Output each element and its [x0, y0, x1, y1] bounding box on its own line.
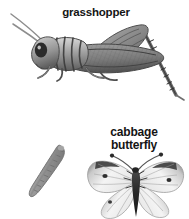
butterfly-head: [132, 167, 139, 173]
butterfly-figure: [82, 150, 189, 219]
butterfly-antenna-club-left: [110, 154, 114, 158]
butterfly-body: [132, 170, 140, 217]
grasshopper-figure: [0, 6, 189, 106]
caterpillar-figure: [20, 138, 80, 208]
butterfly-spot-right-fore: [167, 178, 172, 182]
caterpillar-drawing: [20, 138, 80, 208]
butterfly-antenna-club-right: [159, 153, 163, 157]
caterpillar-head: [58, 145, 64, 150]
caterpillar-segments: [34, 150, 63, 191]
grasshopper-label: grasshopper: [53, 6, 139, 19]
cabbage-butterfly-label: cabbage butterfly: [97, 126, 171, 153]
butterfly-spot-left-fore: [102, 174, 107, 178]
grasshopper-head: [32, 37, 60, 69]
butterfly-drawing: [82, 150, 189, 219]
grasshopper-drawing: [0, 6, 189, 106]
butterfly-spot-left-hind: [108, 200, 112, 203]
illustration-plate: grasshopper: [0, 0, 189, 219]
grasshopper-eye: [35, 43, 47, 58]
